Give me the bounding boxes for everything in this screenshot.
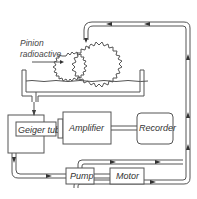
pump: Pump xyxy=(66,168,94,184)
motor: Motor xyxy=(110,168,144,184)
outlet-pipe xyxy=(12,153,66,178)
amplifier: Amplifier xyxy=(58,112,111,144)
motor-label: Motor xyxy=(116,171,140,181)
recorder-label: Recorder xyxy=(139,123,177,133)
pump-label: Pump xyxy=(70,171,94,181)
amplifier-recorder-link xyxy=(111,126,137,130)
oil-circulation-diagram: Pinion radioactive Geiger xyxy=(0,0,197,199)
pump-motor-shaft xyxy=(94,174,110,178)
recorder: Recorder xyxy=(137,113,177,144)
amplifier-label: Amplifier xyxy=(68,123,105,133)
pinion-label: Pinion xyxy=(20,38,44,48)
radioactive-label: radioactive xyxy=(20,49,61,59)
pinion-pointer-arrow xyxy=(32,60,64,64)
oil-tank xyxy=(22,70,148,102)
geiger-tube: Geiger tube xyxy=(8,102,65,153)
pump-outlet-pipe xyxy=(78,160,183,168)
return-pipe xyxy=(74,22,190,188)
